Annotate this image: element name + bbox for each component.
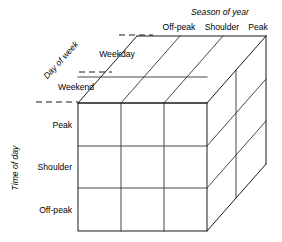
time-axis-group: Time of day Peak Shoulder Off-peak [10, 120, 73, 215]
day-category-weekday: Weekday [99, 49, 135, 59]
front-face-outline [78, 103, 207, 231]
time-category-off-peak: Off-peak [39, 205, 73, 215]
right-face [207, 36, 266, 231]
top-face [78, 36, 266, 103]
time-category-shoulder: Shoulder [38, 162, 73, 172]
season-category-peak: Peak [248, 22, 268, 32]
season-axis-label: Season of year [191, 7, 250, 17]
time-category-peak: Peak [52, 120, 72, 130]
right-face-hline-1 [207, 79, 266, 146]
tariff-cube-figure: Season of year Off-peak Shoulder Peak Da… [0, 0, 282, 242]
right-face-hline-2 [207, 121, 266, 188]
right-face-bottom-edge [207, 164, 266, 231]
top-face-left-edge [78, 36, 137, 103]
top-face-season-divider-1 [121, 36, 180, 103]
front-face [78, 103, 207, 231]
cube-diagram: Season of year Off-peak Shoulder Peak Da… [0, 0, 282, 242]
day-category-weekend: Weekend [58, 82, 94, 92]
top-face-right-edge [207, 36, 266, 103]
time-axis-label: Time of day [10, 145, 20, 191]
season-category-off-peak: Off-peak [163, 22, 197, 32]
day-axis-group: Day of week Weekday Weekend [41, 39, 135, 92]
season-category-shoulder: Shoulder [205, 22, 240, 32]
top-face-season-divider-2 [164, 36, 223, 103]
day-axis-label: Day of week [41, 39, 81, 81]
season-axis-group: Season of year Off-peak Shoulder Peak [163, 7, 269, 32]
